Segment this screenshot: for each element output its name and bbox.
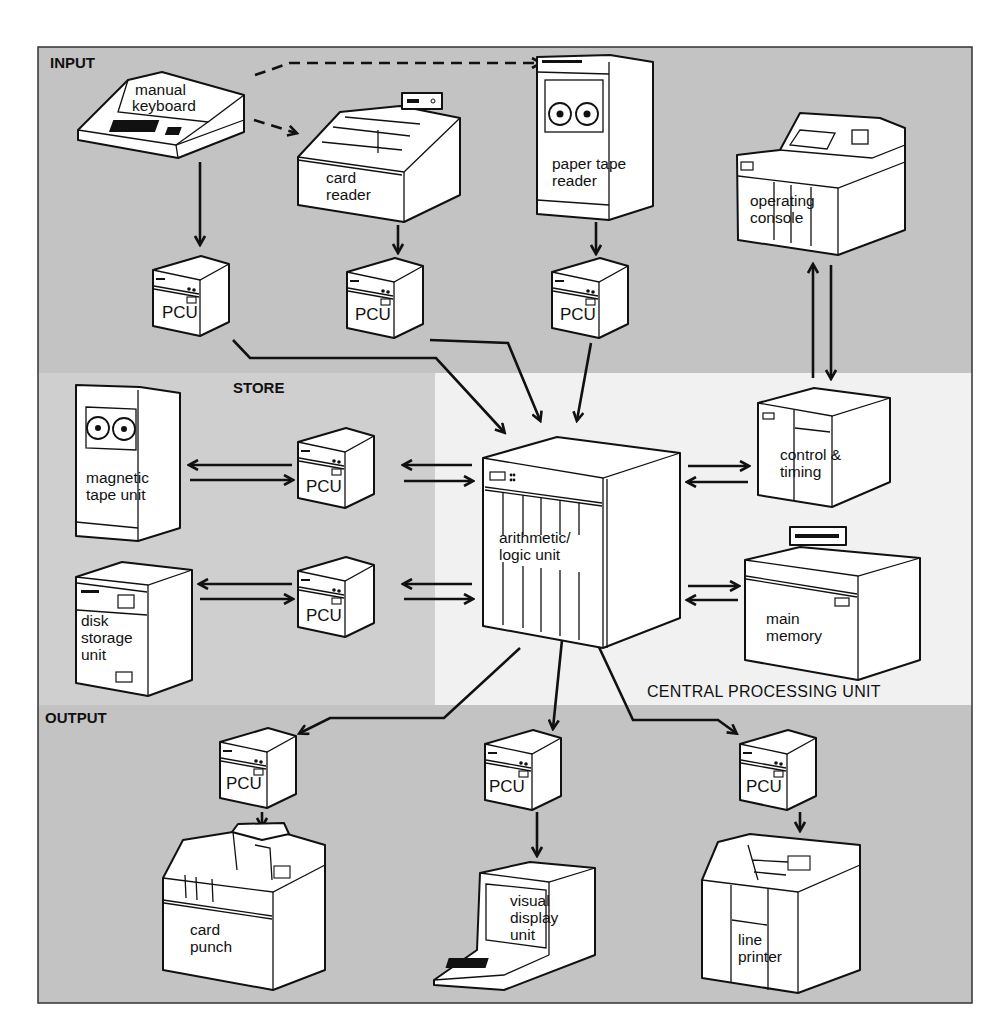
control-timing-label-1: control & [780, 446, 842, 463]
disk-storage-label-2: storage [81, 629, 133, 646]
magnetic-tape-unit-device: magnetic tape unit [76, 385, 180, 541]
region-title-cpu: CENTRAL PROCESSING UNIT [647, 683, 881, 700]
disk-storage-unit-device: disk storage unit [76, 562, 192, 696]
alu-label-1: arithmetic/ [499, 529, 571, 546]
vdu-label-1: visual [510, 892, 550, 909]
magnetic-tape-label-2: tape unit [86, 486, 146, 503]
disk-storage-label-1: disk [81, 612, 109, 629]
alu-label-2: logic unit [499, 546, 561, 563]
control-timing-label-2: timing [780, 463, 821, 480]
line-printer-device: line printer [702, 834, 860, 993]
manual-keyboard-label-1: manual [135, 81, 186, 98]
card-reader-label-2: reader [326, 186, 371, 203]
pcu-label: PCU [162, 303, 198, 322]
vdu-label-2: display [510, 909, 558, 926]
pcu-label: PCU [560, 305, 596, 324]
paper-tape-reader-label-1: paper tape [552, 155, 626, 172]
line-printer-icon [702, 834, 860, 993]
pcu-label: PCU [226, 774, 262, 793]
pcu-vdu: PCU [485, 730, 561, 810]
card-reader-label-1: card [326, 169, 356, 186]
pcu-label: PCU [746, 777, 782, 796]
vdu-label-3: unit [510, 926, 536, 943]
pcu-card-reader: PCU [347, 258, 423, 338]
disk-storage-label-3: unit [81, 646, 107, 663]
line-printer-label-1: line [738, 931, 762, 948]
paper-tape-reader-device: paper tape reader [537, 55, 653, 220]
pcu-line-printer: PCU [740, 730, 816, 810]
region-title-input: INPUT [50, 54, 95, 71]
region-title-store: STORE [233, 379, 284, 396]
main-memory-label-2: memory [766, 627, 822, 644]
main-memory-label-1: main [766, 610, 800, 627]
pcu-label: PCU [306, 606, 342, 625]
card-punch-label-2: punch [190, 938, 232, 955]
line-printer-label-2: printer [738, 948, 782, 965]
control-timing-device: control & timing [758, 388, 890, 507]
magnetic-tape-label-1: magnetic [86, 469, 149, 486]
card-punch-device: card punch [163, 823, 325, 990]
paper-tape-reader-label-2: reader [552, 172, 597, 189]
operating-console-label-2: console [750, 209, 803, 226]
arithmetic-logic-unit-device: arithmetic/ logic unit [483, 437, 680, 648]
pcu-card-punch: PCU [220, 728, 296, 808]
card-punch-icon [163, 826, 325, 990]
pcu-paper-tape: PCU [552, 258, 628, 338]
pcu-label: PCU [355, 305, 391, 324]
manual-keyboard-label-2: keyboard [132, 97, 196, 114]
region-title-output: OUTPUT [45, 709, 107, 726]
pcu-disk: PCU [298, 557, 374, 637]
pcu-label: PCU [306, 477, 342, 496]
computer-system-diagram: INPUT STORE CENTRAL PROCESSING UNIT OUTP… [0, 0, 1007, 1034]
operating-console-label-1: operating [750, 192, 815, 209]
card-punch-label-1: card [190, 921, 220, 938]
pcu-keyboard: PCU [153, 256, 229, 336]
pcu-label: PCU [489, 777, 525, 796]
pcu-magnetic-tape: PCU [298, 428, 374, 508]
